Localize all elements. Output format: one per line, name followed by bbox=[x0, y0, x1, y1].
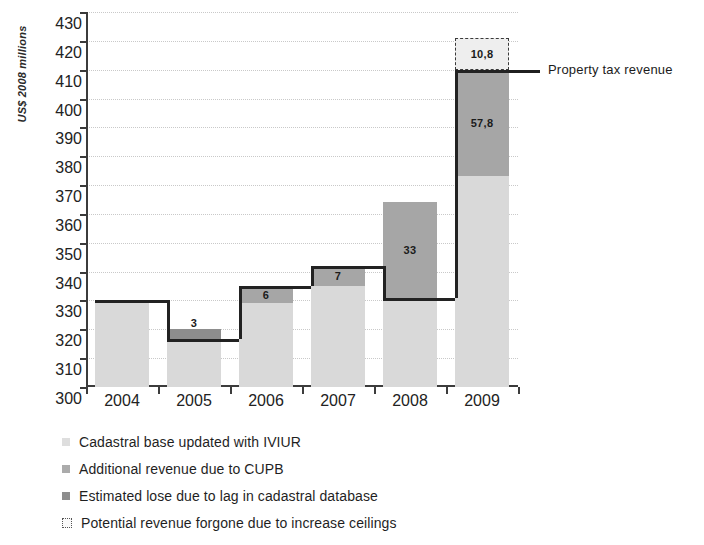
y-axis-tick-label: 300 bbox=[22, 391, 82, 407]
legend-item: Estimated lose due to lag in cadastral d… bbox=[62, 482, 662, 509]
legend-label: Potential revenue forgone due to increas… bbox=[81, 515, 397, 531]
x-axis-tick-label: 2007 bbox=[320, 392, 356, 410]
bar-segment-base bbox=[455, 176, 508, 387]
step-riser bbox=[311, 266, 314, 286]
legend-swatch-icon bbox=[62, 518, 72, 528]
step-segment bbox=[167, 339, 220, 342]
y-axis-tick-label: 400 bbox=[22, 103, 82, 119]
gridline bbox=[86, 12, 518, 13]
y-axis-tick bbox=[80, 127, 87, 129]
bar-segment-increment: 7 bbox=[311, 266, 364, 286]
x-axis-tick-label: 2004 bbox=[104, 392, 140, 410]
step-connector bbox=[293, 286, 312, 289]
y-axis-tick-label: 410 bbox=[22, 74, 82, 90]
x-axis-tick-label: 2009 bbox=[464, 392, 500, 410]
bar-segment-base bbox=[95, 300, 148, 387]
gridline bbox=[86, 156, 518, 157]
y-axis-tick-label: 370 bbox=[22, 189, 82, 205]
gridline bbox=[86, 127, 518, 128]
x-axis-tick-labels: 200420052006200720082009 bbox=[86, 392, 518, 416]
y-axis-tick-label: 380 bbox=[22, 160, 82, 176]
gridline bbox=[86, 358, 518, 359]
y-axis-tick bbox=[80, 300, 87, 302]
segment-value-label: 33 bbox=[383, 244, 436, 256]
gridline bbox=[86, 99, 518, 100]
legend-swatch-icon bbox=[62, 465, 70, 473]
bar-segment-increment: 57,8 bbox=[455, 70, 508, 177]
step-connector bbox=[365, 266, 384, 269]
y-axis-tick bbox=[80, 156, 87, 158]
step-segment bbox=[311, 266, 364, 269]
y-axis-tick bbox=[80, 329, 87, 331]
gridline bbox=[86, 272, 518, 273]
bar-segment-forgone: 10,8 bbox=[455, 38, 508, 70]
y-axis-tick-labels: 3003103203303403503603703803904004104204… bbox=[22, 12, 82, 387]
step-segment bbox=[383, 298, 436, 301]
y-axis-tick bbox=[80, 12, 87, 14]
chart-legend: Cadastral base updated with IVIURAdditio… bbox=[62, 428, 662, 536]
x-axis-tick-label: 2005 bbox=[176, 392, 212, 410]
x-axis-tick-label: 2006 bbox=[248, 392, 284, 410]
y-axis-tick bbox=[80, 243, 87, 245]
y-axis-tick-label: 320 bbox=[22, 333, 82, 349]
step-riser bbox=[167, 300, 170, 339]
y-axis-tick bbox=[80, 99, 87, 101]
gridline bbox=[86, 70, 518, 71]
step-riser bbox=[239, 286, 242, 339]
gridline bbox=[86, 329, 518, 330]
y-axis-tick bbox=[80, 70, 87, 72]
property-tax-revenue-waterfall-chart: US$ 2008 millions 3003103203303403503603… bbox=[0, 0, 704, 545]
step-segment bbox=[95, 300, 148, 303]
x-axis-tick-label: 2008 bbox=[392, 392, 428, 410]
segment-value-label: 6 bbox=[239, 289, 292, 301]
y-axis-tick-label: 310 bbox=[22, 362, 82, 378]
x-axis-tick bbox=[518, 387, 520, 394]
step-connector bbox=[149, 300, 168, 303]
step-riser bbox=[455, 70, 458, 298]
y-axis-tick bbox=[80, 272, 87, 274]
legend-label: Additional revenue due to CUPB bbox=[79, 461, 284, 477]
segment-value-label: 7 bbox=[311, 270, 364, 282]
bar-segment-base bbox=[383, 298, 436, 387]
plot-area: 673357,810,83 bbox=[86, 12, 518, 387]
step-segment bbox=[455, 70, 508, 73]
bar-segment-base bbox=[239, 303, 292, 387]
legend-item: Cadastral base updated with IVIUR bbox=[62, 428, 662, 455]
gridline bbox=[86, 243, 518, 244]
step-segment bbox=[239, 286, 292, 289]
step-connector bbox=[437, 298, 456, 301]
y-axis-tick-label: 340 bbox=[22, 276, 82, 292]
property-tax-revenue-leader-line bbox=[509, 70, 540, 73]
segment-value-label: 3 bbox=[167, 317, 220, 329]
bar-segment-loss bbox=[167, 329, 220, 339]
y-axis-tick bbox=[80, 358, 87, 360]
legend-label: Estimated lose due to lag in cadastral d… bbox=[79, 488, 378, 504]
segment-value-label: 57,8 bbox=[455, 117, 508, 129]
y-axis-tick bbox=[80, 41, 87, 43]
y-axis-tick-label: 420 bbox=[22, 45, 82, 61]
bar-segment-base bbox=[311, 286, 364, 387]
step-connector bbox=[221, 339, 240, 342]
y-axis-tick bbox=[80, 214, 87, 216]
y-axis-tick-label: 360 bbox=[22, 218, 82, 234]
step-riser bbox=[383, 266, 386, 298]
gridline bbox=[86, 214, 518, 215]
segment-value-label: 10,8 bbox=[456, 48, 507, 60]
y-axis-tick-label: 350 bbox=[22, 247, 82, 263]
y-axis-tick bbox=[80, 185, 87, 187]
y-axis-tick-label: 390 bbox=[22, 131, 82, 147]
y-axis-tick-label: 330 bbox=[22, 304, 82, 320]
legend-item: Additional revenue due to CUPB bbox=[62, 455, 662, 482]
gridline bbox=[86, 185, 518, 186]
bar-segment-base bbox=[167, 339, 220, 387]
property-tax-revenue-annotation: Property tax revenue bbox=[548, 62, 673, 77]
legend-swatch-icon bbox=[62, 438, 70, 446]
bar-segment-increment: 33 bbox=[383, 202, 436, 297]
legend-swatch-icon bbox=[62, 492, 70, 500]
y-axis-tick-label: 430 bbox=[22, 16, 82, 32]
legend-item: Potential revenue forgone due to increas… bbox=[62, 509, 662, 536]
legend-label: Cadastral base updated with IVIUR bbox=[79, 434, 301, 450]
gridline bbox=[86, 41, 518, 42]
